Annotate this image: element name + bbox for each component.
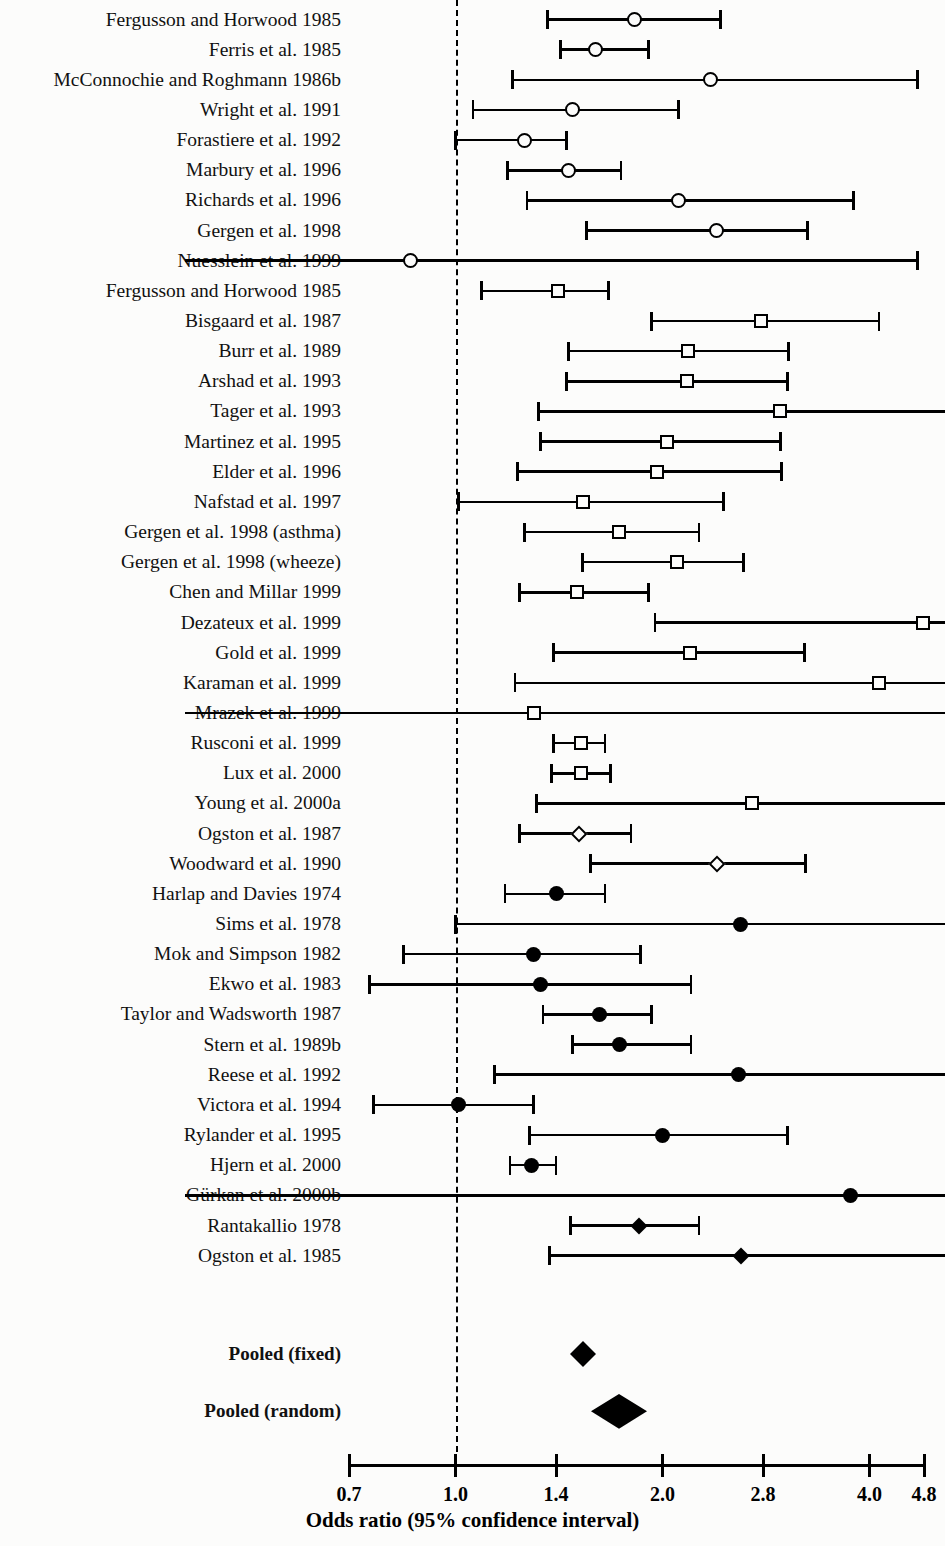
- ci-line: [554, 651, 805, 654]
- study-label: Marbury et al. 1996: [186, 160, 341, 180]
- study-label: Taylor and Wadsworth 1987: [121, 1004, 341, 1024]
- ci-cap: [528, 1126, 531, 1145]
- ci-cap: [504, 884, 507, 903]
- ci-cap: [546, 10, 549, 29]
- ci-cap: [786, 1126, 789, 1145]
- ci-cap: [620, 161, 623, 180]
- study-label: Harlap and Davies 1974: [152, 884, 341, 904]
- open-square-marker: [551, 284, 565, 298]
- open-square-marker: [570, 585, 584, 599]
- ci-cap: [567, 342, 570, 361]
- forest-plot: Fergusson and Horwood 1985Ferris et al. …: [0, 0, 945, 1546]
- ci-cap: [516, 462, 519, 481]
- study-label: Ekwo et al. 1983: [209, 974, 341, 994]
- ci-cap: [589, 854, 592, 873]
- ci-cap: [523, 523, 526, 542]
- open-square-marker: [576, 495, 590, 509]
- axis-tick-label: 2.0: [650, 1484, 675, 1504]
- ci-cap: [472, 100, 475, 119]
- axis-baseline: [349, 1464, 924, 1467]
- ci-cap: [555, 1156, 558, 1175]
- study-label: Rusconi et al. 1999: [190, 733, 341, 753]
- ci-cap: [803, 643, 806, 662]
- ci-cap: [532, 1095, 535, 1114]
- study-label: Rylander et al. 1995: [184, 1125, 341, 1145]
- ci-line: [569, 350, 789, 353]
- axis-tick-label: 4.8: [912, 1484, 937, 1504]
- axis-tick-label: 4.0: [857, 1484, 882, 1504]
- axis-tick-label: 0.7: [337, 1484, 362, 1504]
- ci-cap: [690, 975, 693, 994]
- ci-cap: [480, 281, 483, 300]
- study-label: Ogston et al. 1987: [198, 824, 341, 844]
- ci-cap: [539, 432, 542, 451]
- open-square-marker: [574, 736, 588, 750]
- open-circle-marker: [703, 72, 718, 87]
- filled-circle-marker: [549, 886, 564, 901]
- axis-tick: [348, 1454, 351, 1477]
- open-square-marker: [754, 314, 768, 328]
- ci-cap: [916, 70, 919, 89]
- ci-cap: [511, 70, 514, 89]
- ci-cap: [698, 1216, 701, 1235]
- study-label: Burr et al. 1989: [219, 341, 341, 361]
- ci-cap: [650, 1005, 653, 1024]
- axis-tick: [762, 1454, 765, 1477]
- ci-cap: [916, 251, 919, 270]
- ci-cap: [654, 613, 657, 632]
- open-circle-marker: [561, 163, 576, 178]
- open-circle-marker: [671, 193, 686, 208]
- ci-cap: [506, 161, 509, 180]
- ci-line: [458, 501, 723, 504]
- axis-tick-label: 2.8: [751, 1484, 776, 1504]
- ci-line: [456, 139, 567, 142]
- filled-circle-marker: [733, 917, 748, 932]
- ci-line: [185, 1194, 945, 1197]
- ci-cap: [779, 432, 782, 451]
- ci-cap: [742, 553, 745, 572]
- filled-circle-marker: [843, 1188, 858, 1203]
- ci-cap: [550, 764, 553, 783]
- open-circle-marker: [588, 42, 603, 57]
- study-label: Young et al. 2000a: [195, 793, 341, 813]
- ci-cap: [581, 553, 584, 572]
- ci-line: [403, 953, 640, 956]
- ci-cap: [535, 794, 538, 813]
- open-square-marker: [683, 646, 697, 660]
- ci-cap: [690, 1035, 693, 1054]
- pooled-label: Pooled (fixed): [229, 1344, 341, 1363]
- ci-cap: [552, 643, 555, 662]
- ci-cap: [518, 583, 521, 602]
- ci-line: [370, 983, 691, 986]
- ci-line: [586, 229, 807, 232]
- axis-tick: [868, 1454, 871, 1477]
- study-label: Rantakallio 1978: [207, 1216, 341, 1236]
- ci-cap: [804, 854, 807, 873]
- ci-cap: [722, 492, 725, 511]
- study-label: Richards et al. 1996: [185, 190, 341, 210]
- filled-circle-marker: [526, 947, 541, 962]
- ci-cap: [585, 221, 588, 240]
- open-square-marker: [745, 796, 759, 810]
- study-label: Ogston et al. 1985: [198, 1246, 341, 1266]
- ci-line: [573, 1043, 691, 1046]
- study-label: Wright et al. 1991: [200, 100, 341, 120]
- ci-cap: [514, 673, 517, 692]
- study-label: Hjern et al. 2000: [210, 1155, 341, 1175]
- ci-line: [481, 290, 608, 293]
- study-label: Tager et al. 1993: [210, 401, 341, 421]
- study-label: Woodward et al. 1990: [169, 854, 341, 874]
- study-label: Ferris et al. 1985: [209, 40, 341, 60]
- open-square-marker: [670, 555, 684, 569]
- filled-circle-marker: [451, 1097, 466, 1112]
- ci-cap: [569, 1216, 572, 1235]
- ci-line: [583, 561, 744, 564]
- pooled-diamond-marker: [568, 1339, 598, 1369]
- study-label: Chen and Millar 1999: [169, 582, 341, 602]
- ci-cap: [402, 945, 405, 964]
- study-label: Elder et al. 1996: [212, 462, 341, 482]
- pooled-label: Pooled (random): [204, 1401, 341, 1420]
- open-square-marker: [527, 706, 541, 720]
- ci-line: [655, 621, 945, 624]
- ci-cap: [698, 523, 701, 542]
